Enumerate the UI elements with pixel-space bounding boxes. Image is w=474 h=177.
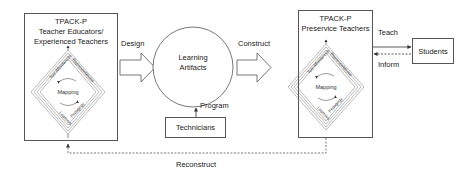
teach-label: Teach xyxy=(378,28,398,37)
right-box-title: TPACK-P xyxy=(298,14,373,23)
construct-label: Construct xyxy=(238,39,270,48)
students-label: Students xyxy=(412,47,454,56)
learning-artifacts-line2: Artifacts xyxy=(163,63,223,72)
construct-arrow xyxy=(237,53,271,82)
left-box-title: TPACK-P xyxy=(24,17,118,26)
design-arrow xyxy=(120,53,155,82)
learning-artifacts-line1: Learning xyxy=(163,53,223,62)
right-box-subtitle: Preservice Teachers xyxy=(298,24,373,33)
reconstruct-label: Reconstruct xyxy=(176,160,216,169)
technicians-label: Technicians xyxy=(165,123,226,132)
inform-label: Inform xyxy=(378,60,399,69)
left-box-subtitle-2: Experienced Teachers xyxy=(24,37,118,46)
left-box-subtitle-1: Teacher Educators/ xyxy=(24,27,118,36)
design-label: Design xyxy=(121,39,144,48)
program-label: Program xyxy=(200,101,229,110)
